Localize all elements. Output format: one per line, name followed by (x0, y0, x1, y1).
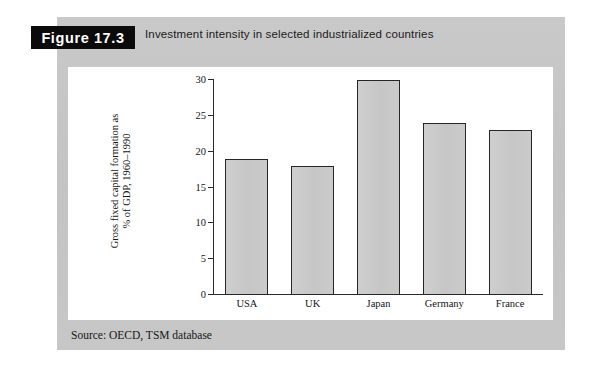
figure-number-tag: Figure 17.3 (31, 26, 135, 49)
y-axis-tick-mark (208, 79, 213, 80)
bar-france (489, 130, 532, 295)
y-axis-title-line2: % of GDP, 1960–1990 (121, 133, 133, 228)
bar-germany (423, 123, 466, 295)
x-axis-tick-labels: USAUKJapanGermanyFrance (214, 298, 543, 318)
y-axis-tick-label: 30 (196, 74, 207, 85)
y-axis-tick-label: 10 (196, 217, 207, 228)
y-axis-tick-mark (208, 187, 213, 188)
x-axis-tick-label: USA (236, 298, 257, 309)
y-axis-title-line1: Gross fixed capital formation as (109, 114, 121, 249)
bar-usa (225, 159, 268, 295)
y-axis-tick-labels: 051015202530 (184, 67, 206, 320)
x-axis-tick-label: Japan (367, 298, 391, 309)
y-axis-tick-label: 15 (196, 181, 207, 192)
bars-layer (214, 67, 543, 295)
y-axis-tick-label: 20 (196, 145, 207, 156)
figure-caption: Investment intensity in selected industr… (145, 28, 434, 40)
bar-uk (291, 166, 334, 295)
y-axis-tick-mark (208, 258, 213, 259)
y-axis-title: Gross fixed capital formation as % of GD… (107, 86, 135, 276)
source-note: Source: OECD, TSM database (71, 329, 212, 341)
x-axis-tick-label: Germany (425, 298, 464, 309)
y-axis-tick-label: 0 (201, 289, 206, 300)
chart-canvas: Gross fixed capital formation as % of GD… (68, 67, 553, 320)
y-axis-tick-mark (208, 151, 213, 152)
bar-japan (357, 80, 400, 295)
y-axis-tick-label: 5 (201, 253, 206, 264)
y-axis-tick-label: 25 (196, 109, 207, 120)
y-axis-tick-mark (208, 222, 213, 223)
x-axis-tick-label: UK (305, 298, 320, 309)
y-axis-tick-mark (208, 115, 213, 116)
x-axis-tick-label: France (496, 298, 525, 309)
y-axis-tick-mark (208, 294, 213, 295)
bar-chart-plot: Gross fixed capital formation as % of GD… (68, 67, 553, 320)
